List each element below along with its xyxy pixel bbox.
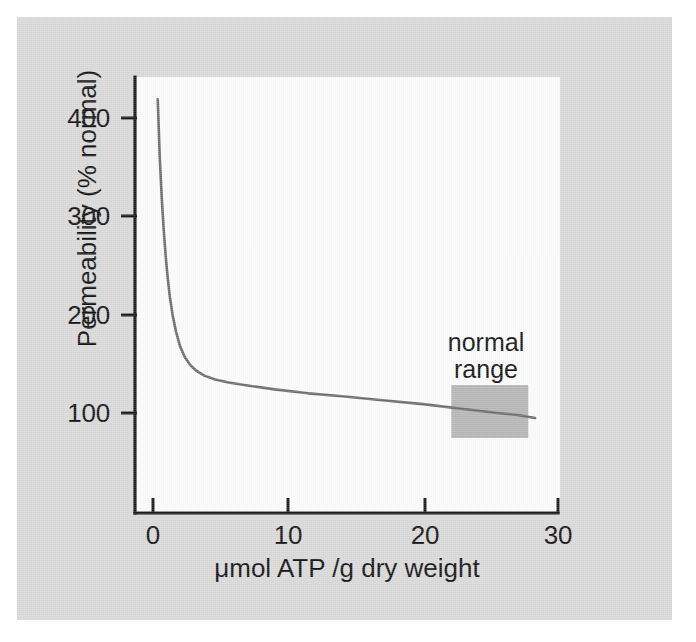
chart-canvas [17, 17, 672, 620]
x-axis-title: μmol ATP /g dry weight [134, 553, 560, 584]
x-tick-label-20: 20 [411, 520, 440, 551]
y-axis-title: Permeability (% normal) [72, 44, 103, 374]
normal-range-annotation: normal range [426, 329, 546, 383]
y-tick-label-100: 100 [47, 398, 110, 429]
x-tick-label-30: 30 [544, 520, 573, 551]
x-tick-label-10: 10 [274, 520, 303, 551]
figure-panel: 400 300 200 100 0 10 20 30 Permeability … [17, 17, 672, 620]
normal-range-annotation-line1: normal [426, 329, 546, 356]
x-tick-label-0: 0 [146, 520, 160, 551]
normal-range-annotation-line2: range [426, 356, 546, 383]
